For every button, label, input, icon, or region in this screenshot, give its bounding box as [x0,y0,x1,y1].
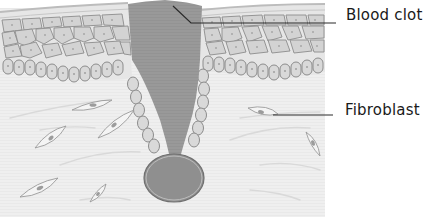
label-blood-clot: Blood clot [346,6,423,24]
epidermis-right [200,4,325,80]
epidermis-left [0,3,132,82]
label-fibroblast: Fibroblast [345,101,420,119]
